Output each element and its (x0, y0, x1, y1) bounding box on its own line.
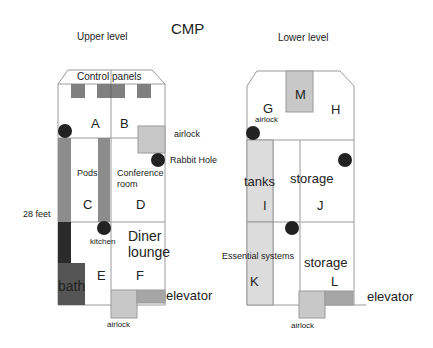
room-a: A (91, 117, 100, 130)
pod-bar-left (58, 138, 71, 222)
room-i: I (263, 199, 267, 212)
conference-label: Conference (117, 169, 164, 178)
rabbit-hole-icon (151, 153, 165, 167)
upper-airlock-bottom (111, 290, 137, 318)
control-panels-label: Control panels (77, 72, 141, 82)
upper-airlock-side (138, 126, 165, 153)
height-label: 28 feet (23, 210, 51, 219)
lower-airlock-top-label: airlock (255, 116, 278, 124)
room-j: J (317, 199, 324, 212)
storage-upper-label: storage (290, 172, 333, 185)
lower-level-heading: Lower level (278, 33, 329, 43)
bath-label: bath (58, 279, 85, 293)
room-c: C (83, 198, 92, 211)
room-g: G (263, 102, 273, 115)
dark-bar (58, 222, 71, 263)
pod-bar-middle (98, 138, 110, 222)
upper-airlock-bottom-label: airlock (107, 321, 130, 329)
lower-airlock-bottom (299, 291, 325, 318)
pods-label: Pods (77, 169, 98, 178)
lower-elevator-label: elevator (367, 290, 413, 303)
conference-room-label: room (117, 180, 138, 189)
diagram-title: CMP (171, 21, 204, 36)
tanks-label: tanks (244, 175, 275, 188)
room-m: M (295, 88, 306, 101)
room-d: D (136, 198, 145, 211)
storage-lower-label: storage (304, 256, 347, 269)
kitchen-hatch-icon (97, 221, 111, 235)
rabbit-hole-label: Rabbit Hole (170, 156, 217, 165)
upper-level-heading: Upper level (77, 32, 128, 42)
upper-elevator (137, 290, 165, 303)
room-k: K (250, 275, 259, 288)
lower-airlock-bottom-label: airlock (291, 322, 314, 330)
lower-airlock-hatch-icon (246, 126, 260, 140)
diner-label: Diner (128, 229, 161, 243)
essential-systems-label: Essential systems (222, 252, 294, 261)
room-e: E (97, 269, 106, 282)
essential-hatch-icon (285, 221, 299, 235)
room-b: B (120, 117, 129, 130)
lower-elevator (325, 291, 353, 305)
upper-elevator-label: elevator (166, 289, 212, 302)
hatch-icon (58, 124, 72, 138)
storage-hatch-icon (338, 153, 352, 167)
control-panel-1 (71, 84, 85, 98)
essential-bar (247, 222, 273, 305)
kitchen-label: kitchen (90, 238, 115, 246)
room-h: H (331, 103, 340, 116)
control-panel-3 (137, 84, 151, 98)
room-f: F (136, 269, 144, 282)
room-l: L (331, 275, 338, 288)
lounge-label: lounge (128, 245, 170, 259)
upper-airlock-side-label: airlock (174, 130, 200, 139)
